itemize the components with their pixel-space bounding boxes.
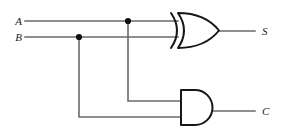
- xor-gate-extra-arc: [171, 13, 177, 48]
- junction-dot-b: [76, 34, 82, 40]
- input-label-a: A: [14, 15, 22, 27]
- circuit-diagram-canvas: A B S C: [0, 0, 284, 134]
- output-label-s: S: [262, 25, 268, 37]
- output-label-c: C: [262, 105, 270, 117]
- wire-a-branch-to-and: [128, 21, 181, 101]
- wire-layer: [25, 21, 255, 117]
- input-label-b: B: [15, 31, 22, 43]
- logic-circuit-svg: A B S C: [0, 0, 284, 134]
- wire-b-branch-to-and: [79, 37, 181, 117]
- and-gate: [181, 90, 213, 125]
- junction-dot-a: [125, 18, 131, 24]
- and-gate-body: [181, 90, 213, 125]
- xor-gate-body: [178, 13, 219, 48]
- xor-gate: [171, 13, 219, 48]
